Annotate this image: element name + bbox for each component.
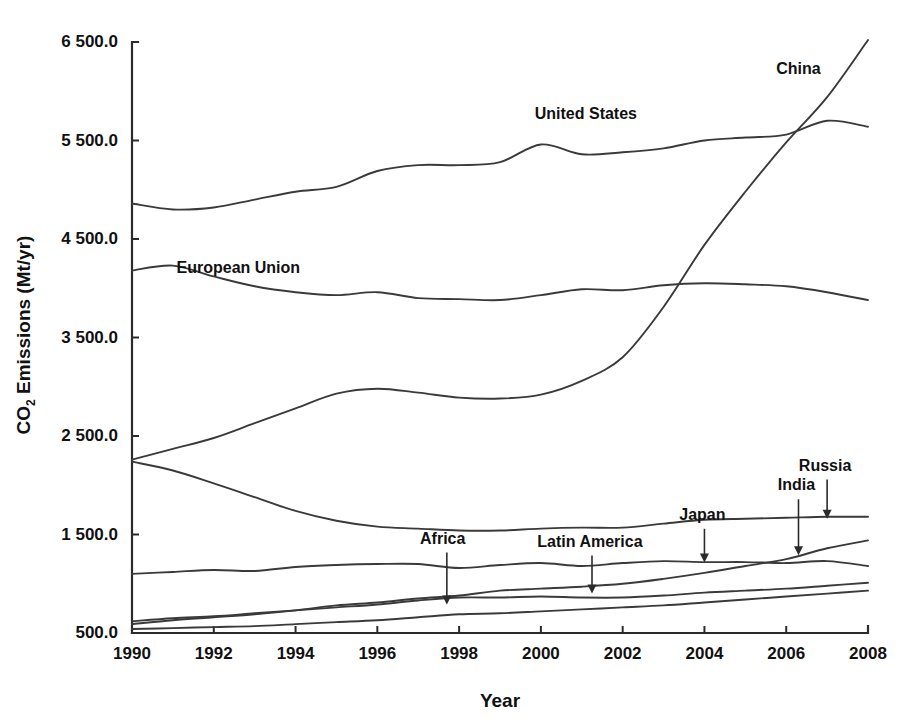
x-tick-label-9: 2008	[849, 644, 887, 663]
series-line-china	[132, 40, 868, 460]
annotation-label-india: India	[778, 476, 815, 493]
series-line-united-states	[132, 121, 868, 210]
x-tick-labels: 1990199219941996199820002002200420062008	[113, 644, 887, 663]
series-label-european-union: European Union	[177, 259, 301, 276]
series-line-japan	[132, 561, 868, 574]
y-axis-title-post: Emissions (Mt/yr)	[13, 236, 34, 400]
series-line-africa	[132, 591, 868, 629]
x-tick-label-3: 1996	[358, 644, 396, 663]
x-tick-label-7: 2004	[686, 644, 724, 663]
x-tick-label-2: 1994	[277, 644, 315, 663]
series-paths-group	[132, 40, 868, 629]
annotation-arrow-head-africa	[442, 595, 451, 604]
annotation-label-japan: Japan	[679, 506, 725, 523]
axes-group: 500.01 500.02 500.03 500.04 500.05 500.0…	[61, 32, 887, 663]
svg-text:CO2 Emissions (Mt/yr): CO2 Emissions (Mt/yr)	[13, 236, 38, 435]
co2-emissions-line-chart: 500.01 500.02 500.03 500.04 500.05 500.0…	[0, 0, 913, 725]
y-tick-label-5: 5 500.0	[61, 131, 118, 150]
x-tick-label-8: 2006	[767, 644, 805, 663]
y-tick-label-3: 3 500.0	[61, 328, 118, 347]
x-tick-label-1: 1992	[195, 644, 233, 663]
series-label-united-states: United States	[535, 105, 637, 122]
y-tick-label-1: 1 500.0	[61, 525, 118, 544]
annotation-japan: Japan	[679, 506, 725, 563]
y-axis-title-pre: CO	[13, 406, 34, 435]
annotation-arrow-head-india	[794, 546, 803, 555]
x-tick-label-6: 2002	[604, 644, 642, 663]
series-line-india	[132, 540, 868, 624]
y-tick-labels: 500.01 500.02 500.03 500.04 500.05 500.0…	[61, 32, 118, 642]
series-line-russia	[132, 462, 868, 531]
annotation-label-africa: Africa	[420, 530, 465, 547]
x-axis-title: Year	[480, 690, 521, 711]
x-tick-label-0: 1990	[113, 644, 151, 663]
x-tick-label-5: 2000	[522, 644, 560, 663]
y-axis-title: CO2 Emissions (Mt/yr)	[13, 236, 38, 435]
annotation-label-latin-america: Latin America	[537, 533, 642, 550]
annotation-india: India	[778, 476, 815, 555]
x-tick-label-4: 1998	[440, 644, 478, 663]
y-tick-label-4: 4 500.0	[61, 229, 118, 248]
annotation-arrow-head-latin-america	[588, 585, 597, 594]
annotation-label-russia: Russia	[799, 457, 852, 474]
series-inline-labels: United StatesEuropean UnionChina	[177, 60, 821, 276]
y-tick-label-2: 2 500.0	[61, 426, 118, 445]
series-label-china: China	[776, 60, 821, 77]
y-tick-label-6: 6 500.0	[61, 32, 118, 51]
chart-container: 500.01 500.02 500.03 500.04 500.05 500.0…	[0, 0, 913, 725]
y-tick-label-0: 500.0	[75, 623, 118, 642]
